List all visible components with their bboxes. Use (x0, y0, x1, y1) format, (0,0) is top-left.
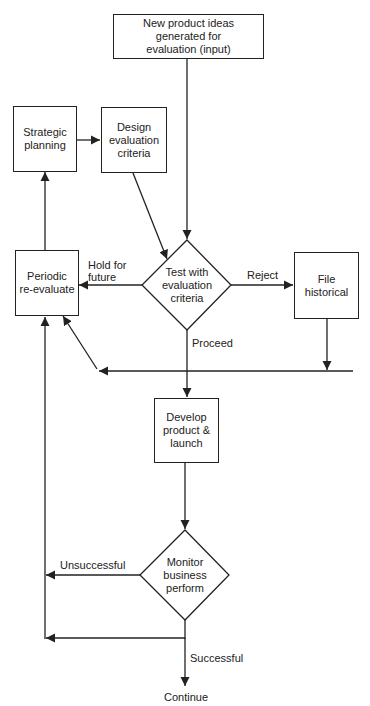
label-proceed: Proceed (192, 337, 233, 349)
node-input: New product ideas generated for evaluati… (113, 14, 264, 59)
node-periodic-reevaluate: Periodic re-evaluate (15, 250, 79, 316)
node-continue: Continue (164, 691, 208, 703)
node-monitor-business: Monitor business perform (145, 552, 225, 598)
edge-design-to-test (133, 173, 167, 259)
node-test-criteria: Test with evaluation criteria (147, 262, 227, 308)
label-unsuccessful: Unsuccessful (60, 559, 125, 571)
label-successful: Successful (190, 652, 243, 664)
node-develop-launch: Develop product & launch (154, 398, 219, 463)
node-strategic-planning: Strategic planning (13, 106, 77, 172)
node-design-criteria: Design evaluation criteria (101, 107, 167, 173)
edge-return-to-periodic (63, 316, 97, 369)
label-reject: Reject (247, 269, 278, 281)
node-file-historical: File historical (294, 252, 359, 319)
label-hold-for-future: Hold for future (88, 259, 127, 283)
